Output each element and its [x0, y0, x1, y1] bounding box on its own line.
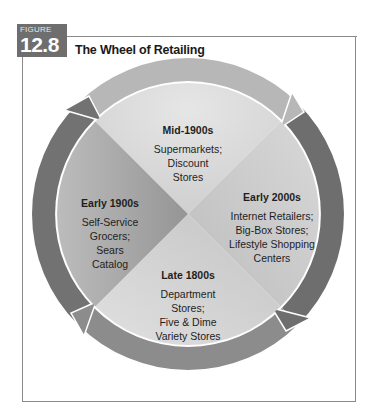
- era-label: Mid-1900s: [128, 123, 248, 137]
- era-desc-line: Centers: [212, 251, 332, 265]
- era-desc-line: Catalog: [60, 257, 160, 271]
- era-desc-line: Sears: [60, 243, 160, 257]
- era-desc-line: Lifestyle Shopping: [212, 237, 332, 251]
- era-desc-line: Five & Dime: [128, 315, 248, 329]
- era-desc-line: Department: [128, 287, 248, 301]
- era-label: Early 2000s: [212, 190, 332, 204]
- era-label: Early 1900s: [60, 196, 160, 210]
- era-desc-line: Discount: [128, 156, 248, 170]
- era-desc-line: Variety Stores: [128, 329, 248, 343]
- era-desc-line: Supermarkets;: [128, 142, 248, 156]
- segment-label-right: Early 2000s Internet Retailers; Big-Box …: [212, 190, 332, 265]
- segment-label-bottom: Late 1800s Department Stores; Five & Dim…: [128, 268, 248, 343]
- era-desc-line: Self-Service: [60, 215, 160, 229]
- era-desc-line: Stores;: [128, 301, 248, 315]
- era-desc-line: Stores: [128, 170, 248, 184]
- era-desc-line: Internet Retailers;: [212, 209, 332, 223]
- segment-label-left: Early 1900s Self-Service Grocers; Sears …: [60, 196, 160, 271]
- era-desc-line: Grocers;: [60, 229, 160, 243]
- segment-label-top: Mid-1900s Supermarkets; Discount Stores: [128, 123, 248, 184]
- era-desc-line: Big-Box Stores;: [212, 223, 332, 237]
